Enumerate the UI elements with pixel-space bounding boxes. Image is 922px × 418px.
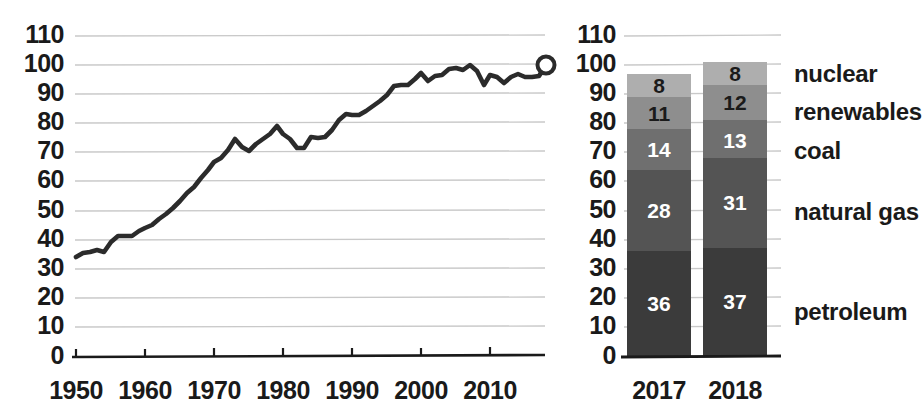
bar-2018-coal-value: 13 bbox=[723, 129, 746, 152]
line-end-marker bbox=[538, 57, 555, 74]
line-x-tick-2010: 2010 bbox=[440, 378, 540, 403]
line-y-tick-0: 0 bbox=[0, 343, 64, 368]
line-y-tick-10: 10 bbox=[0, 313, 64, 338]
bar-2018-renewables-value: 12 bbox=[723, 91, 746, 114]
line-chart-panel: 110 100 90 80 70 60 50 40 30 20 10 0 195… bbox=[0, 0, 566, 418]
legend-label-renewables: renewables bbox=[794, 100, 922, 124]
legend-label-coal: coal bbox=[794, 139, 841, 163]
legend-label-nuclear: nuclear bbox=[794, 62, 877, 86]
line-chart-plot bbox=[0, 0, 566, 418]
bar-2018-natural-gas-value: 31 bbox=[723, 191, 747, 214]
bar-y-tick-10: 10 bbox=[566, 313, 616, 338]
line-y-tick-110: 110 bbox=[0, 22, 64, 47]
bar-y-tick-20: 20 bbox=[566, 284, 616, 309]
line-y-tick-40: 40 bbox=[0, 226, 64, 251]
bar-2017-natural-gas-value: 28 bbox=[647, 199, 671, 222]
legend-label-petroleum: petroleum bbox=[794, 300, 907, 324]
bar-y-tick-30: 30 bbox=[566, 255, 616, 280]
bar-chart-x-axis bbox=[621, 356, 781, 357]
bar-2017-nuclear-value: 8 bbox=[653, 74, 665, 97]
line-y-tick-20: 20 bbox=[0, 284, 64, 309]
legend-label-natural-gas: natural gas bbox=[794, 200, 919, 224]
bar-y-tick-0: 0 bbox=[566, 343, 616, 368]
line-chart-gridlines bbox=[75, 35, 545, 327]
line-y-tick-100: 100 bbox=[0, 51, 64, 76]
bar-x-tick-2018: 2018 bbox=[685, 378, 785, 403]
line-y-tick-30: 30 bbox=[0, 255, 64, 280]
bar-y-tick-50: 50 bbox=[566, 197, 616, 222]
bar-2017: 36 28 14 11 8 bbox=[627, 74, 691, 356]
bar-y-tick-70: 70 bbox=[566, 138, 616, 163]
line-y-tick-90: 90 bbox=[0, 80, 64, 105]
bar-2017-coal-value: 14 bbox=[647, 138, 671, 161]
line-y-tick-60: 60 bbox=[0, 167, 64, 192]
bar-2017-petroleum-value: 36 bbox=[647, 292, 670, 315]
line-chart-x-axis bbox=[72, 355, 545, 357]
bar-y-tick-110: 110 bbox=[566, 22, 616, 47]
bar-2017-renewables-value: 11 bbox=[648, 102, 671, 125]
bar-2018-petroleum-value: 37 bbox=[723, 290, 746, 313]
stacked-bar-chart-panel: 36 28 14 11 8 37 31 13 12 8 bbox=[566, 0, 906, 418]
bar-y-tick-100: 100 bbox=[566, 51, 616, 76]
bar-y-tick-80: 80 bbox=[566, 109, 616, 134]
bar-y-tick-40: 40 bbox=[566, 226, 616, 251]
line-y-tick-80: 80 bbox=[0, 109, 64, 134]
line-y-tick-50: 50 bbox=[0, 197, 64, 222]
bar-y-tick-60: 60 bbox=[566, 167, 616, 192]
bar-2018: 37 31 13 12 8 bbox=[703, 62, 767, 356]
line-y-tick-70: 70 bbox=[0, 138, 64, 163]
bar-y-tick-90: 90 bbox=[566, 80, 616, 105]
bar-2018-nuclear-value: 8 bbox=[729, 62, 741, 85]
